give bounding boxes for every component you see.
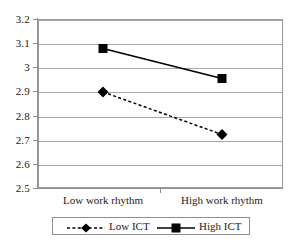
legend-entry-low-ict[interactable]: Low ICT <box>67 218 150 234</box>
legend-entry-high-ict[interactable]: High ICT <box>157 218 241 234</box>
series-low-ict-line <box>103 92 222 135</box>
series-low-ict <box>98 87 228 141</box>
series-high-ict-marker-low <box>99 44 108 53</box>
legend-swatch-dashed-diamond-icon <box>67 220 105 232</box>
interaction-plot-figure: 3.2 3.1 3 2.9 2.8 2.7 2.6 2.5 Low work r… <box>0 0 302 242</box>
series-high-ict-line <box>103 49 222 79</box>
legend-label-low-ict: Low ICT <box>109 221 150 232</box>
series-layer <box>0 0 302 242</box>
legend-label-high-ict: High ICT <box>199 221 241 232</box>
series-high-ict <box>99 44 227 83</box>
series-low-ict-marker-high <box>217 129 228 140</box>
series-high-ict-marker-high <box>218 74 227 83</box>
legend: Low ICT High ICT <box>52 217 250 235</box>
series-low-ict-marker-low <box>98 87 109 98</box>
legend-swatch-solid-square-icon <box>157 220 195 232</box>
